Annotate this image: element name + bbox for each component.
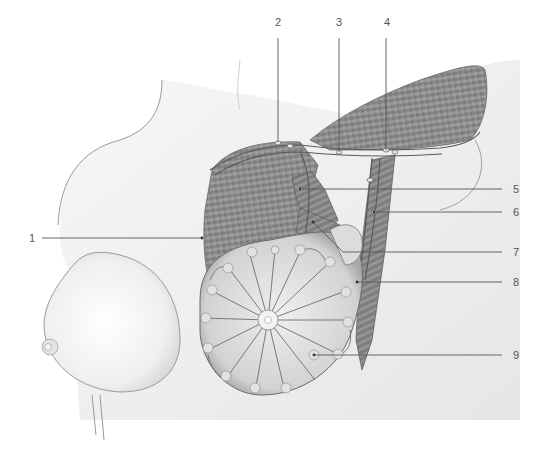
- label-2: 2: [272, 16, 284, 28]
- label-9: 9: [510, 349, 522, 361]
- label-1: 1: [26, 232, 38, 244]
- breast-anatomy-illustration: [0, 0, 549, 455]
- label-4: 4: [381, 16, 393, 28]
- label-5: 5: [510, 183, 522, 195]
- label-7: 7: [510, 246, 522, 258]
- nipple: [45, 344, 52, 351]
- label-8: 8: [510, 276, 522, 288]
- label-6: 6: [510, 206, 522, 218]
- label-3: 3: [333, 16, 345, 28]
